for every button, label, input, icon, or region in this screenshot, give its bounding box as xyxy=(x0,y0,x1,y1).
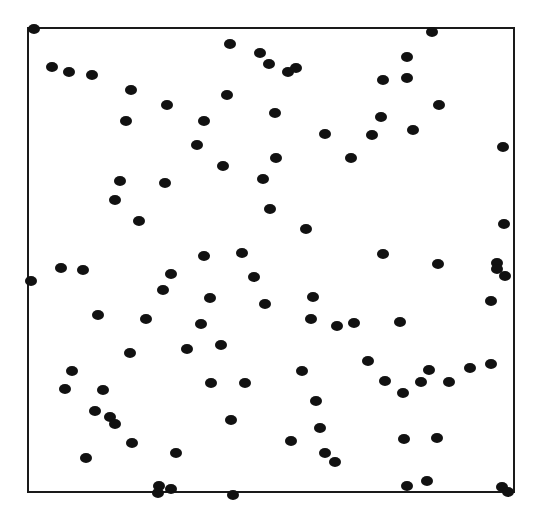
data-point xyxy=(66,366,78,376)
data-point xyxy=(236,248,248,258)
data-point xyxy=(215,340,227,350)
data-point xyxy=(77,265,89,275)
data-point xyxy=(423,365,435,375)
data-point xyxy=(431,433,443,443)
data-point xyxy=(97,385,109,395)
data-point xyxy=(198,116,210,126)
data-point xyxy=(109,195,121,205)
data-point xyxy=(259,299,271,309)
data-point xyxy=(305,314,317,324)
data-point xyxy=(264,204,276,214)
data-point xyxy=(195,319,207,329)
data-point xyxy=(225,415,237,425)
data-point xyxy=(285,436,297,446)
data-point xyxy=(499,271,511,281)
data-point xyxy=(114,176,126,186)
data-point xyxy=(257,174,269,184)
data-point xyxy=(421,476,433,486)
data-point xyxy=(109,419,121,429)
data-point xyxy=(310,396,322,406)
data-point xyxy=(296,366,308,376)
data-point xyxy=(63,67,75,77)
data-point xyxy=(92,310,104,320)
data-point xyxy=(80,453,92,463)
data-point xyxy=(263,59,275,69)
data-point xyxy=(152,488,164,498)
data-point xyxy=(227,490,239,500)
data-point xyxy=(314,423,326,433)
data-points xyxy=(25,24,514,500)
data-point xyxy=(198,251,210,261)
data-point xyxy=(377,75,389,85)
data-point xyxy=(133,216,145,226)
data-point xyxy=(394,317,406,327)
data-point xyxy=(290,63,302,73)
data-point xyxy=(140,314,152,324)
data-point xyxy=(502,487,514,497)
data-point xyxy=(25,276,37,286)
data-point xyxy=(485,359,497,369)
data-point xyxy=(269,108,281,118)
data-point xyxy=(165,269,177,279)
data-point xyxy=(181,344,193,354)
data-point xyxy=(401,52,413,62)
data-point xyxy=(497,142,509,152)
data-point xyxy=(55,263,67,273)
data-point xyxy=(125,85,137,95)
data-point xyxy=(28,24,40,34)
data-point xyxy=(300,224,312,234)
data-point xyxy=(161,100,173,110)
data-point xyxy=(331,321,343,331)
data-point xyxy=(165,484,177,494)
data-point xyxy=(426,27,438,37)
data-point xyxy=(348,318,360,328)
data-point xyxy=(120,116,132,126)
data-point xyxy=(124,348,136,358)
data-point xyxy=(433,100,445,110)
data-point xyxy=(270,153,282,163)
data-point xyxy=(205,378,217,388)
data-point xyxy=(86,70,98,80)
data-point xyxy=(464,363,476,373)
data-point xyxy=(239,378,251,388)
data-point xyxy=(126,438,138,448)
data-point xyxy=(415,377,427,387)
data-point xyxy=(307,292,319,302)
data-point xyxy=(401,481,413,491)
data-point xyxy=(345,153,357,163)
data-point xyxy=(485,296,497,306)
data-point xyxy=(329,457,341,467)
data-point xyxy=(217,161,229,171)
data-point xyxy=(170,448,182,458)
data-point xyxy=(377,249,389,259)
data-point xyxy=(248,272,260,282)
data-point xyxy=(401,73,413,83)
data-point xyxy=(397,388,409,398)
data-point xyxy=(375,112,387,122)
data-point xyxy=(407,125,419,135)
data-point xyxy=(432,259,444,269)
data-point xyxy=(159,178,171,188)
data-point xyxy=(319,448,331,458)
data-point xyxy=(221,90,233,100)
data-point xyxy=(319,129,331,139)
data-point xyxy=(157,285,169,295)
data-point xyxy=(224,39,236,49)
data-point xyxy=(498,219,510,229)
data-point xyxy=(362,356,374,366)
data-point xyxy=(59,384,71,394)
data-point xyxy=(191,140,203,150)
point-pattern-plot xyxy=(0,0,542,516)
data-point xyxy=(398,434,410,444)
data-point xyxy=(379,376,391,386)
data-point xyxy=(46,62,58,72)
data-point xyxy=(254,48,266,58)
data-point xyxy=(366,130,378,140)
data-point xyxy=(204,293,216,303)
data-point xyxy=(443,377,455,387)
data-point xyxy=(89,406,101,416)
